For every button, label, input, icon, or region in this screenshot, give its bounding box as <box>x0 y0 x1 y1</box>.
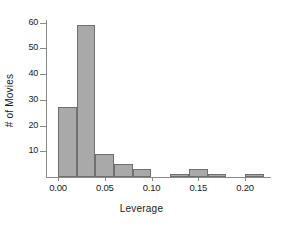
x-tick-mark <box>58 177 59 181</box>
y-tick-label: 50 <box>14 43 38 52</box>
x-tick-mark <box>152 177 153 181</box>
y-tick-mark <box>40 126 46 127</box>
x-tick-label: 0.20 <box>225 182 265 193</box>
y-tick-label: 10 <box>14 146 38 155</box>
y-axis-line <box>46 20 47 177</box>
histogram-bar <box>208 174 227 177</box>
y-tick-mark <box>40 151 46 152</box>
histogram-chart: 102030405060 0.000.050.100.150.20 Levera… <box>0 0 283 229</box>
x-axis-title: Leverage <box>0 203 283 214</box>
x-tick-mark <box>105 177 106 181</box>
x-tick-label: 0.10 <box>132 182 172 193</box>
y-tick-mark <box>40 23 46 24</box>
histogram-bar <box>189 169 208 177</box>
y-tick-mark <box>40 48 46 49</box>
histogram-bar <box>170 174 189 177</box>
plot-area: 102030405060 0.000.050.100.150.20 Levera… <box>0 0 283 229</box>
histogram-bar <box>77 25 96 177</box>
y-tick-mark <box>40 74 46 75</box>
y-tick-label: 20 <box>14 121 38 130</box>
y-tick-label: 30 <box>14 95 38 104</box>
histogram-bar <box>95 154 114 177</box>
y-tick-label: 40 <box>14 69 38 78</box>
histogram-bar <box>245 174 264 177</box>
y-axis-title: # of Movies <box>4 61 15 141</box>
x-tick-label: 0.15 <box>178 182 218 193</box>
histogram-bar <box>114 164 133 177</box>
histogram-bar <box>133 169 152 177</box>
x-tick-label: 0.00 <box>38 182 78 193</box>
histogram-bar <box>58 107 77 177</box>
y-tick-label: 60 <box>14 18 38 27</box>
x-tick-label: 0.05 <box>85 182 125 193</box>
x-tick-mark <box>198 177 199 181</box>
y-tick-mark <box>40 100 46 101</box>
x-tick-mark <box>245 177 246 181</box>
